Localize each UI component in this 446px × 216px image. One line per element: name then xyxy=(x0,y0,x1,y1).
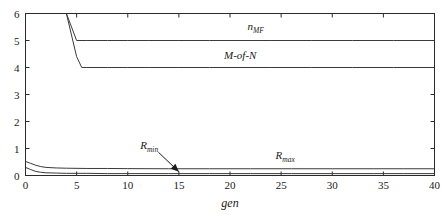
x-tick-label: 20 xyxy=(225,179,237,191)
line-chart: 0510152025303540 0123456 nMFM-of-NRmaxRm… xyxy=(0,0,446,216)
x-tick-label: 15 xyxy=(173,179,185,191)
y-tick-label: 3 xyxy=(14,89,20,101)
y-tick-label: 6 xyxy=(14,8,20,20)
x-tick-label: 5 xyxy=(74,179,80,191)
y-tick-label: 4 xyxy=(14,62,20,74)
y-tick-label: 5 xyxy=(14,35,20,47)
y-tick-label: 2 xyxy=(14,116,20,128)
figure-container: 0510152025303540 0123456 nMFM-of-NRmaxRm… xyxy=(0,0,446,216)
x-tick-label: 40 xyxy=(429,179,441,191)
x-tick-label: 35 xyxy=(378,179,390,191)
x-tick-label: 0 xyxy=(23,179,29,191)
x-tick-label: 25 xyxy=(276,179,288,191)
y-tick-label: 0 xyxy=(14,170,20,182)
y-tick-label: 1 xyxy=(14,143,20,155)
x-tick-label: 10 xyxy=(122,179,134,191)
series-label-m-of-n: M-of-N xyxy=(223,49,257,61)
x-axis-title: gen xyxy=(221,196,238,210)
x-tick-label: 30 xyxy=(327,179,339,191)
